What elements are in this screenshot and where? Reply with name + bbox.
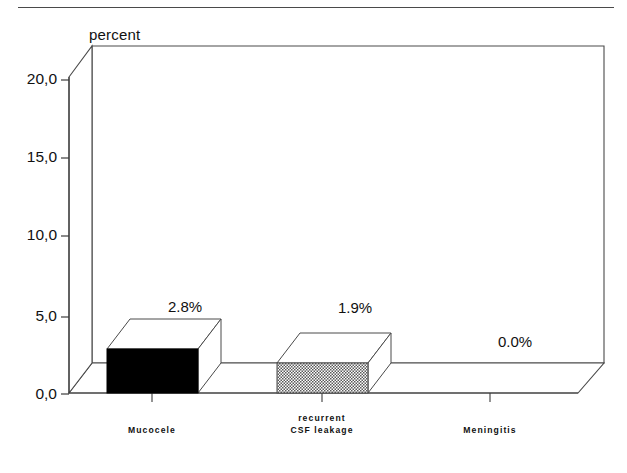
data-label-csf-leakage: 1.9% (315, 299, 395, 316)
y-tick-label-0: 0,0 (0, 385, 57, 403)
chart-figure: percent 20,0 15,0 10,0 5,0 0,0 2.8% 1.9%… (0, 0, 627, 473)
x-category-label-mucocele: Mucocele (82, 424, 222, 436)
x-category-label-csf-leakage: recurrent CSF leakage (252, 412, 392, 436)
y-tick-label-15: 15,0 (0, 148, 57, 166)
bar-mucocele (107, 319, 221, 393)
y-tick-label-10: 10,0 (0, 226, 57, 244)
data-label-meningitis: 0.0% (475, 333, 555, 350)
plot-left-wall (69, 46, 92, 393)
bar-csf-leakage-front (277, 363, 368, 393)
bar-csf-leakage (277, 333, 391, 393)
x-axis (69, 393, 578, 402)
y-axis-title: percent (89, 26, 140, 43)
x-category-label-meningitis: Meningitis (420, 424, 560, 436)
data-label-mucocele: 2.8% (145, 298, 225, 315)
bar-mucocele-front (107, 349, 198, 393)
y-tick-label-5: 5,0 (0, 307, 57, 325)
y-axis (61, 77, 69, 394)
bar-chart-3d-canvas (0, 0, 627, 473)
y-tick-label-20: 20,0 (0, 70, 57, 88)
